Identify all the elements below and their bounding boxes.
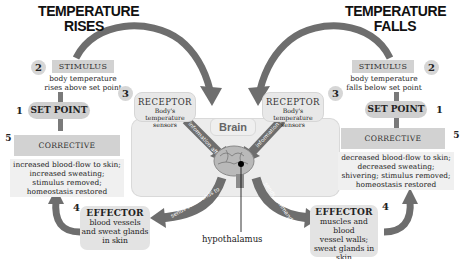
set-point-pill-left: SET POINT [28,102,90,119]
connector-right-bottom [394,118,399,128]
left-title: TEMPERATURE RISES [38,4,130,34]
step-number-2-right: 2 [424,60,439,75]
effector-box-left: EFFECTOR blood vessels and sweat glands … [80,206,150,250]
step-number-1-left: 1 [12,103,27,118]
set-point-pill-right: SET POINT [365,101,427,118]
step-number-3-right: 3 [328,86,343,101]
corrective-header-left: CORRECTIVE RESPONSE [14,135,120,156]
brain-icon [214,146,254,176]
corrective-text-left: increased blood-flow to skin; increased … [10,159,124,197]
right-title: TEMPERATURE FALLS [345,4,445,34]
stimulus-text-left: body temperature rises above set point [38,74,128,92]
connector-left-bottom [58,119,63,131]
effector-box-right: EFFECTOR muscles and blood vessel walls;… [310,205,378,257]
brain-label: Brain [210,118,256,136]
corrective-header-right: CORRECTIVE RESPONSE [341,128,445,149]
step-number-5-right: 5 [449,128,464,143]
corrective-text-right: decreased blood-flow to skin; decreased … [338,152,454,190]
step-number-1-right: 1 [432,102,447,117]
stimulus-text-right: body temperature falls below set point [338,74,430,92]
receptor-box-left: RECEPTOR Body's temperature sensors [134,92,196,122]
step-number-4-right: 4 [378,199,393,214]
receptor-box-right: RECEPTOR Body's temperature sensors [262,92,324,122]
hypothalamus-label: hypothalamus [202,234,262,244]
stimulus-header-right: STIMULUS [352,60,414,73]
stimulus-header-left: STIMULUS [52,60,114,73]
step-number-3-left: 3 [118,86,133,101]
arrow-command-left [160,178,222,218]
connector-left-top [58,92,63,102]
step-number-2-left: 2 [31,60,46,75]
